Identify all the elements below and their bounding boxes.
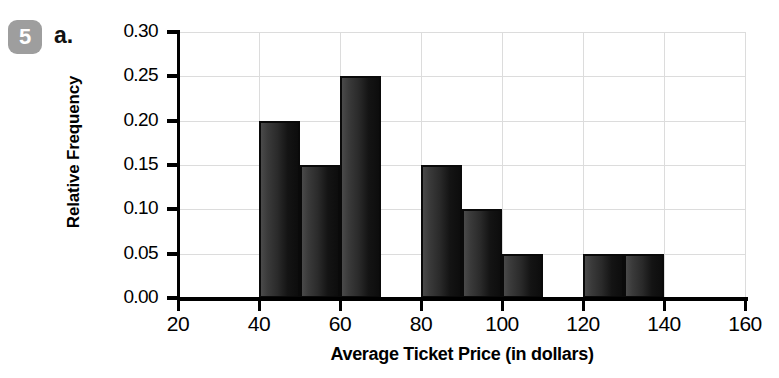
- y-tick-label: 0.05: [96, 242, 158, 264]
- x-tick-label: 100: [467, 312, 537, 336]
- gridline-horizontal: [178, 32, 745, 33]
- y-tick-label: 0.15: [96, 153, 158, 175]
- y-axis-tick: [167, 163, 179, 167]
- x-axis-tick: [177, 300, 180, 311]
- x-axis-tick: [501, 300, 504, 311]
- histogram-bar: [421, 165, 462, 298]
- y-tick-label: 0.10: [96, 197, 158, 219]
- histogram-bar: [340, 76, 381, 298]
- gridline-horizontal: [178, 76, 745, 77]
- histogram-bar: [300, 165, 341, 298]
- histogram-bar: [583, 254, 624, 298]
- x-axis-tick: [582, 300, 585, 311]
- y-tick-label: 0.25: [96, 64, 158, 86]
- y-tick-label: 0.00: [96, 286, 158, 308]
- x-tick-label: 160: [710, 312, 779, 336]
- x-axis-title: Average Ticket Price (in dollars): [178, 344, 746, 365]
- x-axis-tick: [339, 300, 342, 311]
- x-axis-tick: [258, 300, 261, 311]
- histogram-bar: [259, 121, 300, 298]
- histogram-bar: [624, 254, 665, 298]
- y-axis-tick: [167, 252, 179, 256]
- gridline-vertical: [745, 32, 746, 298]
- y-axis-title: Relative Frequency: [64, 32, 84, 272]
- x-axis-tick: [744, 300, 747, 311]
- x-tick-label: 80: [386, 312, 456, 336]
- problem-number-badge: 5: [8, 20, 42, 54]
- y-axis-tick: [167, 74, 179, 78]
- x-tick-label: 120: [548, 312, 618, 336]
- histogram-bar: [462, 209, 503, 298]
- y-axis-tick: [167, 119, 179, 123]
- x-tick-label: 140: [629, 312, 699, 336]
- y-tick-label: 0.20: [96, 109, 158, 131]
- gridline-vertical: [664, 32, 665, 298]
- x-tick-label: 20: [143, 312, 213, 336]
- x-axis-tick: [420, 300, 423, 311]
- y-axis-tick: [167, 207, 179, 211]
- plot-area: [178, 32, 745, 298]
- x-tick-label: 40: [224, 312, 294, 336]
- x-axis-tick: [663, 300, 666, 311]
- x-tick-label: 60: [305, 312, 375, 336]
- histogram-bar: [502, 254, 543, 298]
- y-tick-label: 0.30: [96, 20, 158, 42]
- y-axis-tick: [167, 30, 179, 34]
